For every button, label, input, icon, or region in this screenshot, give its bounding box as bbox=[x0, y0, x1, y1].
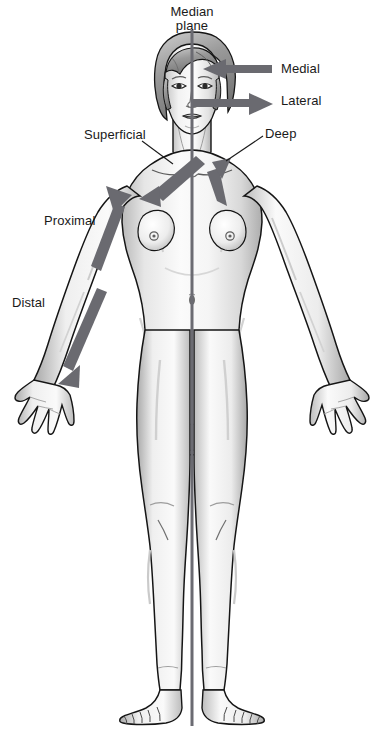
anatomy-illustration bbox=[0, 0, 382, 730]
head bbox=[155, 32, 236, 134]
label-proximal: Proximal bbox=[44, 214, 95, 227]
arm-right-of-image bbox=[244, 186, 369, 434]
label-median-plane-line2: plane bbox=[152, 19, 232, 33]
label-distal: Distal bbox=[12, 296, 45, 309]
label-median-plane-line1: Median bbox=[152, 5, 232, 19]
label-median-plane: Median plane bbox=[152, 5, 232, 32]
deep-leader-line bbox=[226, 136, 263, 161]
label-medial: Medial bbox=[281, 62, 320, 75]
anatomy-figure: Median plane Medial Lateral Deep Superfi… bbox=[0, 0, 382, 730]
label-lateral: Lateral bbox=[281, 94, 321, 107]
label-deep: Deep bbox=[265, 127, 296, 140]
label-superficial: Superficial bbox=[84, 128, 146, 141]
